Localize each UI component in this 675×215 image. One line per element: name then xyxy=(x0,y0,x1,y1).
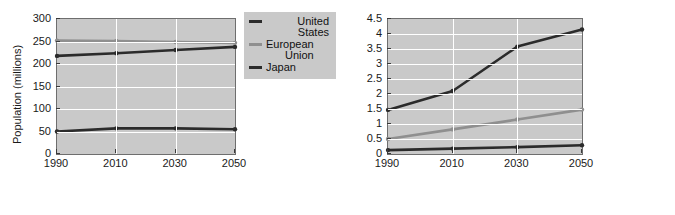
y-axis-tick-label: 3 xyxy=(376,58,382,69)
legend-item[interactable]: European Union xyxy=(249,39,329,61)
series-line xyxy=(388,30,582,110)
data-point-marker xyxy=(55,54,59,58)
x-axis-tick-mark xyxy=(175,149,176,153)
y-axis-tick-mark xyxy=(387,123,391,124)
y-axis-tick-label: 50 xyxy=(39,125,51,136)
y-axis-tick-mark xyxy=(387,93,391,94)
gridline-horizontal xyxy=(57,87,235,88)
y-axis-tick-mark xyxy=(387,18,391,19)
y-axis-tick-label: 4 xyxy=(376,28,382,39)
gridline-horizontal xyxy=(57,132,235,133)
legend-left: United StatesEuropean UnionJapan xyxy=(244,12,336,79)
x-axis-tick-mark xyxy=(581,149,582,153)
plot-area-right xyxy=(387,18,583,155)
gridline-vertical xyxy=(176,19,177,154)
y-axis-tick-label: 300 xyxy=(33,13,51,24)
y-axis-tick-mark xyxy=(56,86,60,87)
chart-developed-economies-population: Population (millions) 050100150200250300… xyxy=(0,0,338,215)
x-axis-tick-label: 1990 xyxy=(44,158,68,169)
y-axis-tick-label: 2 xyxy=(376,88,382,99)
y-axis-tick-mark xyxy=(387,63,391,64)
x-axis-tick-mark xyxy=(452,149,453,153)
x-axis-tick-label: 2010 xyxy=(103,158,127,169)
gridline-horizontal xyxy=(388,109,582,110)
gridline-horizontal xyxy=(388,94,582,95)
y-axis-tick-label: 4.5 xyxy=(367,13,382,24)
y-axis-tick-label: 3.5 xyxy=(367,43,382,54)
x-axis-tick-label: 1990 xyxy=(375,158,399,169)
legend-swatch-icon xyxy=(249,66,262,69)
y-axis-tick-mark xyxy=(56,41,60,42)
x-axis-tick-mark xyxy=(387,149,388,153)
gridline-horizontal xyxy=(388,124,582,125)
chart-emerging-economies-population: Population (billions) 00.511.522.533.544… xyxy=(337,0,675,215)
x-axis-tick-label: 2050 xyxy=(222,158,246,169)
legend-label: United States xyxy=(266,16,329,38)
y-axis-tick-label: 250 xyxy=(33,35,51,46)
data-point-marker xyxy=(580,143,584,147)
series-line xyxy=(57,47,235,56)
legend-label: Japan xyxy=(266,62,296,73)
x-axis-tick-label: 2030 xyxy=(504,158,528,169)
x-axis-tick-label: 2030 xyxy=(162,158,186,169)
y-axis-tick-label: 0.5 xyxy=(367,133,382,144)
legend-swatch-icon xyxy=(249,20,262,23)
legend-item[interactable]: Japan xyxy=(249,62,329,73)
y-axis-tick-mark xyxy=(56,108,60,109)
y-axis-tick-mark xyxy=(387,153,391,154)
data-point-marker xyxy=(580,27,584,31)
y-axis-tick-mark xyxy=(56,63,60,64)
y-axis-tick-mark xyxy=(387,108,391,109)
gridline-horizontal xyxy=(388,139,582,140)
gridline-vertical xyxy=(453,19,454,154)
y-axis-tick-mark xyxy=(387,48,391,49)
y-axis-tick-label: 200 xyxy=(33,58,51,69)
x-axis-tick-mark xyxy=(516,149,517,153)
legend-swatch-icon xyxy=(249,43,262,46)
y-axis-tick-label: 2.5 xyxy=(367,73,382,84)
data-point-marker xyxy=(233,45,237,49)
y-axis-tick-label: 1.5 xyxy=(367,103,382,114)
y-axis-tick-label: 150 xyxy=(33,80,51,91)
y-axis-tick-mark xyxy=(387,78,391,79)
y-axis-tick-mark xyxy=(56,18,60,19)
plot-area-left xyxy=(56,18,236,155)
y-axis-tick-label: 1 xyxy=(376,118,382,129)
y-axis-label-left: Population (millions) xyxy=(12,45,23,144)
series-layer-right xyxy=(388,19,582,154)
gridline-horizontal xyxy=(388,64,582,65)
x-axis-tick-mark xyxy=(234,149,235,153)
y-axis-tick-mark xyxy=(387,138,391,139)
y-axis-tick-mark xyxy=(56,153,60,154)
x-axis-tick-label: 2010 xyxy=(439,158,463,169)
legend-label: European Union xyxy=(266,39,314,61)
gridline-horizontal xyxy=(388,79,582,80)
y-axis-tick-mark xyxy=(56,131,60,132)
gridline-horizontal xyxy=(388,49,582,50)
x-axis-tick-mark xyxy=(56,149,57,153)
gridline-horizontal xyxy=(388,34,582,35)
x-axis-tick-label: 2050 xyxy=(569,158,593,169)
gridline-horizontal xyxy=(57,42,235,43)
series-line xyxy=(388,145,582,150)
x-axis-tick-mark xyxy=(115,149,116,153)
gridline-vertical xyxy=(116,19,117,154)
gridline-horizontal xyxy=(57,109,235,110)
legend-item[interactable]: United States xyxy=(249,16,329,38)
gridline-vertical xyxy=(517,19,518,154)
y-axis-tick-label: 100 xyxy=(33,103,51,114)
y-axis-tick-mark xyxy=(387,33,391,34)
gridline-horizontal xyxy=(57,64,235,65)
